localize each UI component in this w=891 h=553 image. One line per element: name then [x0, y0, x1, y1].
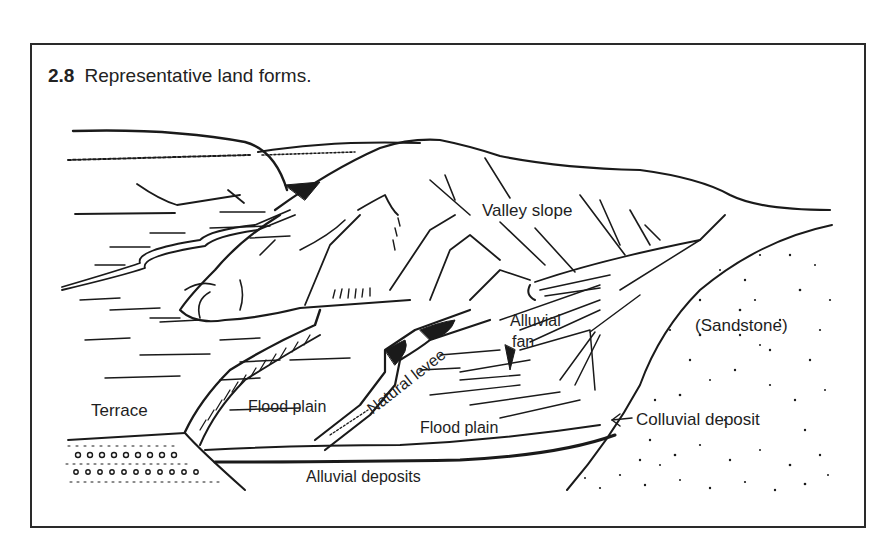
label-alluvial-deposits: Alluvial deposits: [306, 468, 421, 486]
label-flood-plain-left: Flood plain: [248, 398, 326, 416]
label-colluvial-deposit: Colluvial deposit: [636, 410, 760, 430]
label-terrace: Terrace: [91, 401, 148, 421]
label-alluvial: Alluvial: [510, 312, 561, 330]
label-fan: fan: [512, 333, 534, 351]
label-valley-slope: Valley slope: [482, 201, 572, 221]
label-sandstone: (Sandstone): [695, 316, 788, 336]
landform-illustration: [0, 0, 891, 553]
label-flood-plain-right: Flood plain: [420, 419, 498, 437]
